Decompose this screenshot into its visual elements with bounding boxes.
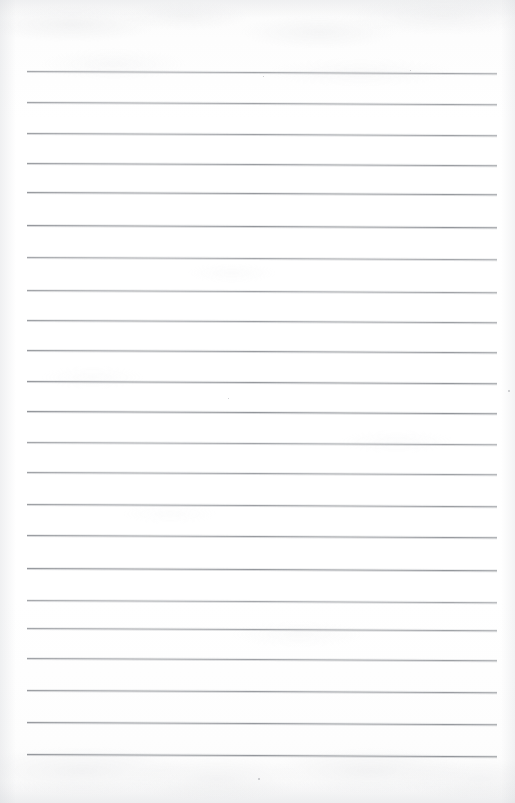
- scanned-page: [0, 0, 515, 803]
- scan-speck: [258, 778, 260, 780]
- page-handwriting-area: [27, 71, 497, 761]
- scan-speck: [508, 390, 510, 392]
